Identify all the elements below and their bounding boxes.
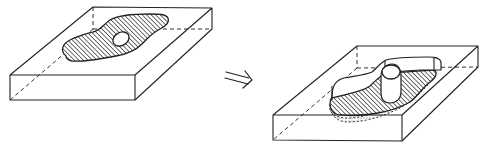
implies-arrow-icon (225, 71, 252, 88)
right-hole-top (382, 65, 400, 79)
left-block-front-face (10, 75, 135, 100)
right-block (273, 46, 478, 141)
left-block (10, 7, 212, 100)
diagram-canvas (0, 0, 487, 149)
diagram-svg (0, 0, 487, 149)
